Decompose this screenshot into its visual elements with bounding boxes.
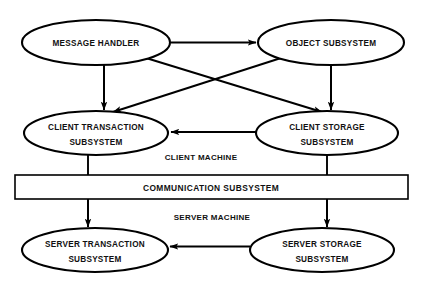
client-storage-label-line2: SUBSYSTEM [300,138,353,147]
server-transaction-label-line2: SUBSYSTEM [68,255,121,264]
node-server-storage-subsystem[interactable]: SERVER STORAGE SUBSYSTEM [250,228,394,272]
zone-label-client-machine: CLIENT MACHINE [165,153,238,162]
server-storage-label-line1: SERVER STORAGE [282,240,362,249]
node-object-subsystem[interactable]: OBJECT SUBSYSTEM [258,20,404,65]
node-server-transaction-subsystem[interactable]: SERVER TRANSACTION SUBSYSTEM [22,228,168,272]
node-client-transaction-subsystem[interactable]: CLIENT TRANSACTION SUBSYSTEM [24,111,168,155]
client-storage-ellipse [256,111,398,155]
node-communication-subsystem[interactable]: COMMUNICATION SUBSYSTEM [15,175,408,199]
object-subsystem-label: OBJECT SUBSYSTEM [286,39,376,48]
server-storage-ellipse [250,228,394,272]
message-handler-label: MESSAGE HANDLER [53,39,140,48]
client-transaction-ellipse [24,111,168,155]
system-architecture-diagram: MESSAGE HANDLER OBJECT SUBSYSTEM CLIENT … [0,0,425,290]
client-transaction-label-line2: SUBSYSTEM [69,138,122,147]
client-transaction-label-line1: CLIENT TRANSACTION [48,123,144,132]
node-client-storage-subsystem[interactable]: CLIENT STORAGE SUBSYSTEM [256,111,398,155]
client-storage-label-line1: CLIENT STORAGE [289,123,365,132]
node-message-handler[interactable]: MESSAGE HANDLER [22,20,170,65]
communication-subsystem-label: COMMUNICATION SUBSYSTEM [143,183,279,193]
edge-message-handler-to-client-storage [146,58,322,112]
zone-label-server-machine: SERVER MACHINE [174,213,251,222]
server-transaction-ellipse [22,228,168,272]
server-transaction-label-line1: SERVER TRANSACTION [45,240,145,249]
edge-object-subsystem-to-client-transaction [113,58,281,112]
architecture-diagram-canvas: MESSAGE HANDLER OBJECT SUBSYSTEM CLIENT … [0,0,425,290]
server-storage-label-line2: SUBSYSTEM [295,255,348,264]
